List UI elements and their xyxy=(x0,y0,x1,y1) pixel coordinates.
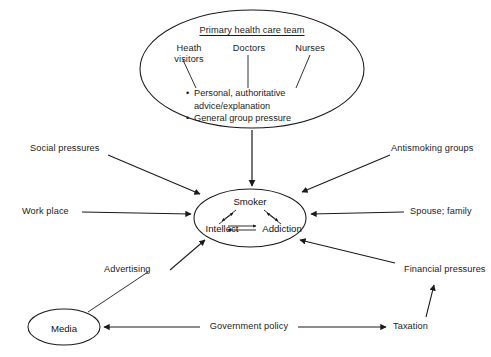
team-actions-list: • Personal, authoritative advice/explana… xyxy=(186,87,291,125)
media-label: Media xyxy=(51,323,77,334)
influence-advertising-label: Advertising xyxy=(104,264,151,275)
list-item-label: General group pressure xyxy=(194,112,291,125)
arrow-smoker-to-addiction xyxy=(264,210,278,221)
member-heath-visitors: Heath visitors xyxy=(174,43,203,65)
arrow-financial-pressures xyxy=(300,240,395,263)
influence-antismoking-groups-label: Antismoking groups xyxy=(391,143,474,154)
smoker-influences-diagram: Primary health care team Heath visitors … xyxy=(0,0,491,357)
arrow-antismoking-groups xyxy=(302,155,390,192)
line-media-to-advertising xyxy=(88,272,148,312)
government-policy-label: Government policy xyxy=(210,321,288,332)
arrow-spouse-family xyxy=(311,212,404,214)
taxation-label: Taxation xyxy=(393,321,428,332)
bullet-marker-icon: • xyxy=(186,112,194,125)
primary-health-care-team-heading: Primary health care team xyxy=(199,25,304,36)
connector-nurses xyxy=(296,55,310,88)
arrow-advertising xyxy=(170,240,205,270)
list-item-label: Personal, authoritative advice/explanati… xyxy=(194,87,285,112)
smoker-label: Smoker xyxy=(233,196,266,207)
addiction-label: Addiction xyxy=(262,223,301,234)
intellect-label: Intellect xyxy=(205,223,238,234)
member-nurses: Nurses xyxy=(295,43,325,54)
list-item: • General group pressure xyxy=(186,112,291,125)
arrow-social-pressures xyxy=(108,155,200,194)
influence-work-place-label: Work place xyxy=(22,206,69,217)
list-item: • Personal, authoritative advice/explana… xyxy=(186,87,291,112)
arrow-taxation-to-financial-pressures xyxy=(426,285,434,317)
arrow-work-place xyxy=(82,212,191,214)
influence-spouse-family-label: Spouse; family xyxy=(410,206,472,217)
bullet-marker-icon: • xyxy=(186,87,194,100)
influence-social-pressures-label: Social pressures xyxy=(30,143,100,154)
member-doctors: Doctors xyxy=(233,43,265,54)
arrow-smoker-to-intellect xyxy=(222,210,236,221)
influence-financial-pressures-label: Financial pressures xyxy=(404,264,486,275)
